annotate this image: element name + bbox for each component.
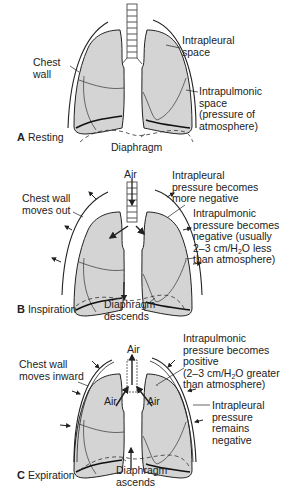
panel-title-b: BInspiration xyxy=(17,303,76,315)
label-air-c-left: Air xyxy=(104,396,117,408)
panel-a-resting xyxy=(68,4,198,142)
label-line: atmosphere) xyxy=(199,121,262,133)
label-line: Intrapulmonic xyxy=(183,333,280,345)
trachea xyxy=(122,4,142,64)
label-diaphragm-a: Diaphragm xyxy=(111,142,162,154)
label-line: Intrapulmonic xyxy=(199,86,262,98)
label-line: than atmosphere) xyxy=(193,254,279,266)
label-line: (pressure of xyxy=(199,109,262,121)
outward-arrow xyxy=(89,192,96,199)
label-line: Intrapulmonic xyxy=(193,208,279,220)
panel-title-a: AResting xyxy=(17,131,64,143)
label-line: Diaphragm xyxy=(111,142,162,154)
label-diaphragm-b: Diaphragm descends xyxy=(104,299,155,322)
outward-arrow xyxy=(52,258,61,262)
label-intrapulmonic-a: Intrapulmonic space (pressure of atmosph… xyxy=(199,86,262,132)
outward-arrow xyxy=(65,226,72,230)
label-text: (2–3 cm/H xyxy=(183,367,231,379)
label-text: 2–3 cm/H xyxy=(193,242,238,254)
label-air-b: Air xyxy=(124,169,137,181)
inward-arrow xyxy=(72,391,80,394)
inward-arrow xyxy=(195,420,203,422)
label-line: Diaphragm xyxy=(104,299,155,311)
panel-title: Expiration xyxy=(28,469,75,481)
label-intrapleural-b: Intrapleural pressure becomes more negat… xyxy=(172,170,258,205)
label-line: more negative xyxy=(172,193,258,205)
label-intrapleural-a: Intrapleural space xyxy=(182,35,235,58)
label-line: moves out xyxy=(22,205,70,217)
label-chest-wall-b: Chest wall moves out xyxy=(22,193,70,216)
label-diaphragm-c: Diaphragm ascends xyxy=(116,465,167,488)
inward-arrow xyxy=(60,425,70,426)
label-line: Chest xyxy=(33,57,60,69)
label-line: moves inward xyxy=(19,371,84,383)
panel-letter: A xyxy=(17,131,25,143)
label-intrapleural-c: Intrapleural pressure remains negative xyxy=(212,400,265,446)
label-line: descends xyxy=(104,311,155,323)
label-line: wall xyxy=(33,69,60,81)
panel-letter: C xyxy=(17,469,25,481)
label-text: O less xyxy=(242,242,272,254)
panel-letter: B xyxy=(17,303,25,315)
label-line: Intrapleural xyxy=(182,35,235,47)
inward-arrow xyxy=(168,360,175,367)
panel-title: Inspiration xyxy=(28,303,76,315)
label-line: ascends xyxy=(116,477,167,489)
inward-arrow xyxy=(92,361,99,368)
label-line: Intrapleural xyxy=(212,400,265,412)
label-line: than atmosphere) xyxy=(183,379,280,391)
label-line: negative xyxy=(212,435,265,447)
label-text: O greater xyxy=(235,367,279,379)
label-line: Chest wall xyxy=(22,193,70,205)
panel-title: Resting xyxy=(28,131,64,143)
label-line: remains xyxy=(212,423,265,435)
label-chest-wall-a: Chest wall xyxy=(33,57,60,80)
label-intrapulmonic-c: Intrapulmonic pressure becomes positive … xyxy=(183,333,280,391)
label-air-c-right: Air xyxy=(147,396,160,408)
label-chest-wall-c: Chest wall moves inward xyxy=(19,359,84,382)
label-line: space xyxy=(182,47,235,59)
label-line: Intrapleural xyxy=(172,170,258,182)
label-intrapulmonic-b: Intrapulmonic pressure becomes negative … xyxy=(193,208,279,266)
label-air-c-top: Air xyxy=(127,344,140,356)
label-line: Chest wall xyxy=(19,359,84,371)
label-line: Diaphragm xyxy=(116,465,167,477)
panel-title-c: CExpiration xyxy=(17,469,75,481)
air-arrow-right xyxy=(136,226,144,234)
